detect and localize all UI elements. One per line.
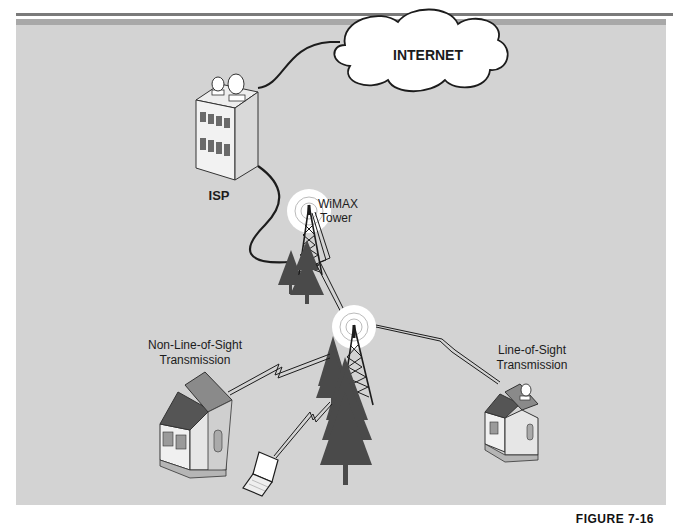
nlos-house: Non-Line-of-Sight Transmission (148, 338, 243, 478)
wireless-link-relay-laptop (274, 402, 332, 458)
wimax-tower: WiMAX Tower (278, 189, 358, 304)
nlos-caption-line2: Transmission (160, 353, 231, 367)
los-house: Line-of-Sight Transmission (485, 343, 567, 462)
window-icon (176, 435, 186, 449)
laptop (243, 452, 278, 496)
isp-label: ISP (209, 188, 230, 203)
window-icon (490, 422, 498, 434)
wimax-tower-label-line2: Tower (320, 211, 352, 225)
los-caption-line2: Transmission (497, 358, 568, 372)
wired-link-isp-internet (258, 42, 340, 88)
door-window-icon (527, 424, 533, 440)
wireless-link-relay-los (376, 325, 500, 384)
internet-label: INTERNET (393, 47, 463, 63)
wimax-tower-label-line1: WiMAX (318, 197, 358, 211)
figure-label: FIGURE 7-16 (576, 512, 654, 526)
satellite-dish-icon (228, 74, 245, 101)
satellite-dish-icon (212, 77, 224, 95)
window-icon (163, 432, 173, 446)
nlos-caption-line1: Non-Line-of-Sight (148, 338, 243, 352)
wireless-link-relay-nlos (228, 354, 330, 395)
relay-tower (316, 305, 376, 485)
internet-cloud: INTERNET (334, 9, 507, 91)
door-window-icon (214, 430, 222, 452)
isp-building: ISP (196, 74, 258, 203)
wired-link-isp-tower (250, 166, 290, 262)
los-caption-line1: Line-of-Sight (498, 343, 567, 357)
satellite-dish-icon (520, 384, 531, 400)
